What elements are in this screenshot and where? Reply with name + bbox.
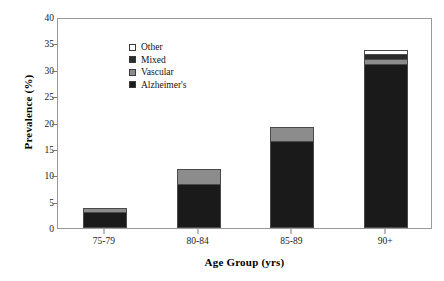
bar-segment-alzheimer-s xyxy=(270,141,314,228)
bar-segment-alzheimer-s xyxy=(177,184,221,228)
x-axis-title: Age Group (yrs) xyxy=(57,256,432,268)
x-tick-label: 90+ xyxy=(345,236,425,246)
bar-segment-vascular xyxy=(177,169,221,185)
bar-85-89 xyxy=(270,127,314,228)
y-tick-label: 0 xyxy=(28,224,54,234)
legend-item-vascular: Vascular xyxy=(129,66,187,79)
x-tick-mark xyxy=(385,229,386,234)
plot-area: OtherMixedVascularAlzheimer's xyxy=(57,18,432,229)
bar-segment-alzheimer-s xyxy=(364,64,408,228)
legend-swatch-icon xyxy=(129,56,136,63)
bar-segment-alzheimer-s xyxy=(83,212,127,228)
x-tick-mark xyxy=(197,229,198,234)
y-tick-label: 15 xyxy=(28,145,54,155)
bars-container xyxy=(58,19,431,228)
y-tick-label: 10 xyxy=(28,171,54,181)
legend-item-alzheimer-s: Alzheimer's xyxy=(129,79,187,92)
legend-swatch-icon xyxy=(129,69,136,76)
y-tick-label: 20 xyxy=(28,119,54,129)
legend-label: Other xyxy=(141,42,163,52)
x-tick-label: 80-84 xyxy=(158,236,238,246)
bar-segment-vascular xyxy=(270,127,314,142)
bar-80-84 xyxy=(177,169,221,228)
legend-label: Alzheimer's xyxy=(141,80,187,90)
legend-label: Mixed xyxy=(141,55,166,65)
bar-75-79 xyxy=(83,208,127,228)
y-tick-label: 25 xyxy=(28,92,54,102)
x-tick-label: 85-89 xyxy=(251,236,331,246)
chart-figure: Prevalence (%) 0510152025303540 OtherMix… xyxy=(0,0,444,281)
legend-label: Vascular xyxy=(141,67,174,77)
y-tick-label: 40 xyxy=(28,13,54,23)
y-tick-label: 5 xyxy=(28,198,54,208)
legend-swatch-icon xyxy=(129,44,136,51)
legend-item-other: Other xyxy=(129,41,187,54)
chart-legend: OtherMixedVascularAlzheimer's xyxy=(129,41,187,91)
legend-swatch-icon xyxy=(129,81,136,88)
y-tick-label: 30 xyxy=(28,66,54,76)
x-tick-mark xyxy=(291,229,292,234)
bar-90+ xyxy=(364,50,408,228)
legend-item-mixed: Mixed xyxy=(129,54,187,67)
y-tick-label: 35 xyxy=(28,39,54,49)
x-tick-label: 75-79 xyxy=(64,236,144,246)
x-tick-mark xyxy=(103,229,104,234)
